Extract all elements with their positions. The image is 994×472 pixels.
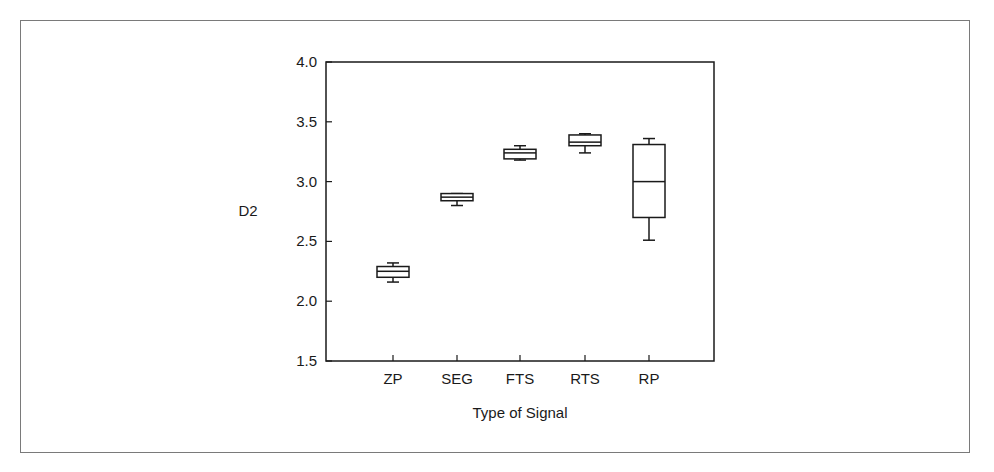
y-tick-label: 3.5 bbox=[296, 113, 317, 130]
box-plot-chart: 1.52.02.53.03.54.0 ZPSEGFTSRTSRP D2 Type… bbox=[0, 0, 994, 472]
y-tick-label: 2.0 bbox=[296, 292, 317, 309]
box-rts bbox=[569, 134, 601, 153]
box-zp bbox=[377, 263, 409, 282]
box-series bbox=[377, 134, 665, 282]
y-tick-label: 3.0 bbox=[296, 173, 317, 190]
x-tick-label: SEG bbox=[441, 370, 473, 387]
y-axis-label: D2 bbox=[238, 202, 257, 219]
y-tick-label: 2.5 bbox=[296, 232, 317, 249]
x-tick-label: FTS bbox=[506, 370, 534, 387]
x-tick-label: RP bbox=[639, 370, 660, 387]
y-tick-label: 1.5 bbox=[296, 352, 317, 369]
x-axis-label: Type of Signal bbox=[472, 404, 567, 421]
x-axis-ticks: ZPSEGFTSRTSRP bbox=[383, 355, 659, 387]
box-fts bbox=[504, 146, 536, 160]
y-tick-label: 4.0 bbox=[296, 53, 317, 70]
box-seg bbox=[441, 194, 473, 206]
x-tick-label: ZP bbox=[383, 370, 402, 387]
box-rp bbox=[633, 139, 665, 241]
x-tick-label: RTS bbox=[570, 370, 600, 387]
